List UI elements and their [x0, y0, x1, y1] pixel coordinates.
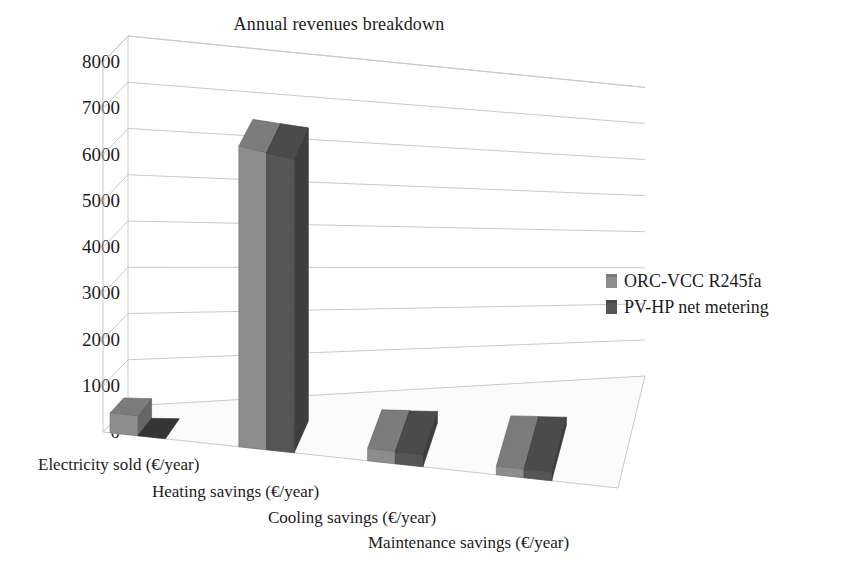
legend-item-2[interactable]: PV-HP net metering — [606, 294, 842, 320]
chart-legend: ORC-VCC R245faPV-HP net metering — [606, 268, 842, 320]
x-axis-label-2: Heating savings (€/year) — [152, 482, 319, 502]
x-axis-label-1: Electricity sold (€/year) — [38, 455, 199, 475]
legend-swatch-icon — [606, 300, 617, 314]
legend-item-1[interactable]: ORC-VCC R245fa — [606, 268, 842, 294]
legend-label: PV-HP net metering — [624, 298, 769, 316]
legend-label: ORC-VCC R245fa — [624, 272, 762, 290]
legend-swatch-icon — [606, 274, 617, 288]
x-axis-label-4: Maintenance savings (€/year) — [368, 533, 569, 553]
x-axis-label-3: Cooling savings (€/year) — [268, 508, 436, 528]
bar-2-series-2[interactable] — [267, 124, 309, 453]
chart-container: Annual revenues breakdown 01000200030004… — [0, 0, 848, 574]
